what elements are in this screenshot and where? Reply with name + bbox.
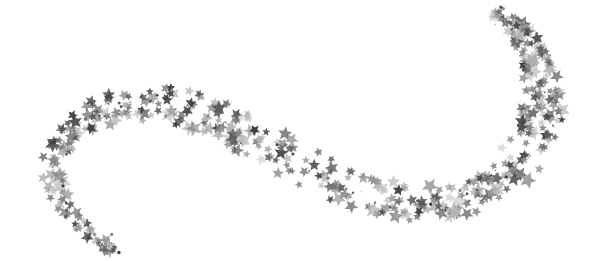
star-shape (503, 185, 512, 194)
sparkle-dot (536, 32, 538, 34)
sparkle-dot (240, 143, 241, 144)
star-shape (139, 116, 147, 124)
star-shape (422, 179, 439, 195)
sparkle-dot (502, 7, 505, 10)
sparkle-dot (494, 24, 496, 26)
sparkle-dot (516, 40, 519, 43)
sparkle-dot (544, 91, 546, 93)
sparkle-dot (71, 202, 72, 203)
star-shape (256, 154, 267, 165)
star-shape (295, 181, 303, 189)
sparkle-dot (500, 183, 502, 185)
sparkle-dot (191, 104, 193, 106)
sparkle-dot (501, 18, 503, 20)
sparkle-dot (522, 69, 524, 71)
star-shape (314, 148, 323, 157)
star-shape (497, 142, 507, 153)
sparkle-dot (511, 15, 513, 17)
sparkle-dot (438, 213, 440, 215)
sparkle-dot (156, 94, 159, 97)
sparkle-dot (117, 251, 120, 254)
sparkle-dot (529, 155, 531, 157)
sparkle-dot (60, 132, 62, 134)
sparkle-dot (512, 24, 513, 25)
sparkle-dot (434, 199, 436, 201)
sparkle-dot (480, 195, 482, 197)
sparkle-dot (127, 107, 130, 110)
star-shape (243, 150, 251, 158)
sparkle-dot (308, 170, 311, 173)
sparkle-dot (113, 243, 115, 245)
sparkle-dot (104, 115, 107, 118)
sparkle-dot (397, 210, 399, 212)
sparkle-dot (476, 189, 478, 191)
sparkle-dot (276, 143, 279, 146)
sparkle-dot (345, 188, 348, 191)
sparkle-dot (65, 148, 67, 150)
star-shape (215, 117, 222, 125)
star-shape (262, 128, 270, 136)
sparkle-dot (79, 122, 81, 124)
sparkle-dot (530, 72, 533, 75)
sparkle-dot (492, 177, 495, 180)
star-shape (272, 167, 284, 179)
star-shape (327, 156, 335, 164)
sparkle-dot (320, 185, 321, 186)
star-shape (522, 139, 530, 147)
sparkle-dot (149, 99, 152, 102)
sparkle-dot (49, 197, 52, 200)
sparkle-dot (141, 104, 142, 105)
sparkle-dot (84, 117, 87, 120)
sparkle-dot (505, 176, 508, 179)
sparkle-dot (292, 153, 295, 156)
star-shape (154, 107, 163, 116)
sparkle-dot (207, 115, 209, 117)
sparkle-dot (327, 177, 330, 180)
star-shape (490, 162, 498, 170)
sparkle-dot (541, 54, 543, 56)
sparkle-dot (65, 153, 67, 155)
sparkle-dot (495, 170, 496, 171)
sparkle-dot (480, 191, 483, 194)
sparkle-dot (140, 95, 143, 98)
sparkle-dot (535, 48, 536, 49)
sparkle-dot (429, 203, 432, 206)
star-shape (506, 153, 514, 162)
star-shape (535, 164, 545, 174)
star-shape (345, 200, 359, 213)
sparkle-dot (524, 61, 526, 63)
star-shape (344, 174, 352, 182)
star-shape (387, 175, 400, 188)
sparkle-dot (527, 65, 528, 66)
sparkle-dot (283, 143, 286, 146)
star-shape (318, 181, 327, 190)
star-shape (506, 136, 515, 144)
star-shape (299, 167, 310, 177)
star-shape (308, 159, 320, 170)
sparkle-dot (56, 187, 58, 189)
sparkle-dot (527, 106, 529, 108)
star-shape (302, 156, 310, 164)
sparkle-dot (118, 102, 121, 105)
sparkle-dot (224, 121, 226, 123)
star-shape (185, 86, 195, 96)
star-shape (38, 152, 49, 163)
sparkle-dot (48, 147, 50, 149)
sparkle-dot (98, 115, 100, 117)
sparkle-dot (552, 125, 554, 127)
sparkle-dot (164, 114, 167, 117)
star-shape (550, 70, 564, 83)
sparkle-dot (468, 200, 471, 203)
star-shape (472, 207, 482, 217)
sparkle-dot (108, 103, 110, 105)
sparkle-dot (522, 24, 524, 26)
sparkle-dot (129, 101, 131, 103)
sparkle-dot (485, 190, 488, 193)
sparkle-dot (234, 133, 235, 134)
sparkle-dot (61, 184, 64, 187)
sparkle-dot (112, 114, 114, 116)
sparkle-dot (52, 166, 53, 167)
sparkle-dot (142, 101, 143, 102)
sparkle-dot (106, 252, 108, 254)
star-shape (272, 156, 280, 164)
